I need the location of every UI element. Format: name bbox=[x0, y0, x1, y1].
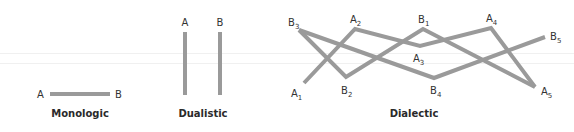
dialectic-label-a1: A1 bbox=[291, 88, 302, 102]
dialectic-label-a5: A5 bbox=[541, 86, 552, 100]
dialectic-label-a4: A4 bbox=[486, 13, 498, 27]
dialectic-label-b5: B5 bbox=[550, 31, 561, 45]
dualistic-label-a: A bbox=[182, 17, 189, 28]
dualistic-label-b: B bbox=[217, 17, 224, 28]
dualistic-caption: Dualistic bbox=[178, 108, 227, 119]
dialectic-label-a2: A2 bbox=[350, 14, 361, 28]
monologic-label-a: A bbox=[37, 89, 44, 100]
dialectic-panel: B3 A1 A2 B2 B1 A3 B4 A4 B5 A5 Dialectic bbox=[288, 13, 561, 119]
monologic-panel: A B Monologic bbox=[37, 89, 122, 119]
dialectic-label-b3: B3 bbox=[288, 17, 299, 31]
diagram-canvas: A B Monologic A B Dualistic B3 A1 A2 B2 … bbox=[0, 0, 574, 132]
dialectic-label-a3: A3 bbox=[413, 53, 424, 67]
monologic-label-b: B bbox=[115, 89, 122, 100]
dialectic-label-b2: B2 bbox=[341, 85, 352, 99]
dialectic-label-b1: B1 bbox=[418, 14, 429, 28]
dialectic-caption: Dialectic bbox=[390, 108, 439, 119]
monologic-caption: Monologic bbox=[51, 108, 109, 119]
dualistic-panel: A B Dualistic bbox=[178, 17, 227, 119]
dialectic-label-b4: B4 bbox=[430, 85, 442, 99]
thinking-modes-diagram: A B Monologic A B Dualistic B3 A1 A2 B2 … bbox=[0, 0, 574, 132]
